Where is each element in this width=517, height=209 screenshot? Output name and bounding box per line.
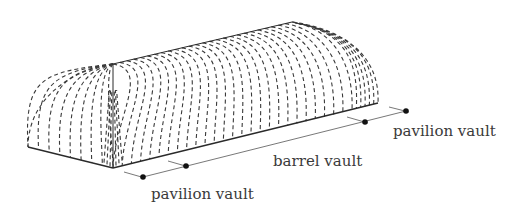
dimension-point-3 [362,119,368,125]
barrel-rib [251,32,297,124]
barrel-rib [258,30,307,121]
ridge-line [113,22,292,64]
barrel-rib [168,51,192,150]
barrel-rib [271,27,324,117]
right-pavilion-rib [293,22,356,109]
barrel-rib [120,62,138,165]
barrel-rib [161,53,184,153]
barrel-rib [189,46,217,143]
label-pavilion-vault-right: pavilion vault [393,122,496,140]
vault-diagram: pavilion vault barrel vault pavilion vau… [0,0,517,209]
barrel-rib [237,35,279,128]
left-pavilion-rib [59,64,113,155]
left-pavilion-rib [38,64,113,150]
barrel-rib [203,43,235,139]
barrel-rib [182,48,209,146]
barrel-rib [264,28,315,118]
barrel-rib [209,41,242,136]
dimension-point-4 [403,108,409,114]
left-pavilion-outline [28,64,113,147]
dimension-point-1 [140,174,146,180]
groin-rib-right [115,90,119,163]
label-pavilion-vault-left: pavilion vault [151,185,254,203]
dimension-line [124,107,409,180]
dimension-point-2 [183,163,189,169]
barrel-rib [230,37,270,131]
label-barrel-vault: barrel vault [273,152,362,170]
